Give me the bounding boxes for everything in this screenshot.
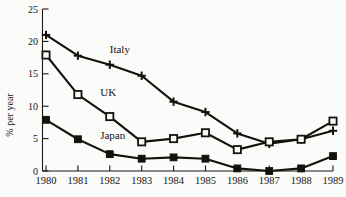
data-point — [43, 116, 50, 123]
data-point — [42, 51, 49, 58]
series-label-italy: Italy — [110, 43, 131, 55]
data-point — [266, 168, 273, 175]
data-point — [202, 129, 209, 136]
x-tick-label-1984: 1984 — [163, 175, 185, 186]
x-tick-label-1987: 1987 — [259, 175, 280, 186]
data-point — [234, 146, 241, 153]
data-series-layer — [42, 31, 337, 175]
x-tick-label-1989: 1989 — [323, 175, 344, 186]
inflation-line-chart: 0 5 10 15 20 25 % per year — [0, 0, 346, 197]
series-line-japan — [46, 120, 333, 171]
data-point — [138, 138, 145, 145]
data-point — [234, 165, 241, 172]
chart-plot-area: 0 5 10 15 20 25 % per year — [0, 0, 346, 197]
data-point — [106, 61, 114, 69]
data-point — [74, 136, 81, 143]
y-tick-label-20: 20 — [28, 36, 38, 47]
data-point — [170, 154, 177, 161]
data-point — [106, 113, 113, 120]
series-line-italy — [46, 35, 333, 144]
y-tick-label-5: 5 — [33, 133, 38, 144]
series-uk — [42, 51, 336, 153]
data-point — [170, 135, 177, 142]
y-axis: 0 5 10 15 20 25 % per year — [4, 4, 49, 177]
x-tick-label-1983: 1983 — [131, 175, 152, 186]
x-tick-label-1986: 1986 — [227, 175, 248, 186]
series-japan — [43, 116, 337, 174]
y-tick-label-10: 10 — [28, 101, 38, 112]
data-point — [266, 138, 273, 145]
y-tick-labels: 0 5 10 15 20 25 — [28, 4, 38, 177]
series-line-uk — [46, 55, 333, 150]
x-tick-label-1985: 1985 — [195, 175, 216, 186]
series-italy — [42, 31, 337, 148]
x-tick-label-1988: 1988 — [291, 175, 312, 186]
data-point — [202, 155, 209, 162]
data-point — [74, 91, 81, 98]
series-annotations: ItalyUKJapan — [100, 43, 130, 141]
data-point — [329, 127, 337, 135]
data-point — [298, 136, 305, 143]
data-point — [329, 118, 336, 125]
data-point — [106, 151, 113, 158]
y-tick-label-15: 15 — [28, 68, 38, 79]
x-tick-labels: 1980 1981 1982 1983 1984 1985 1986 1987 … — [36, 175, 344, 186]
series-label-uk: UK — [100, 86, 116, 98]
x-tick-label-1982: 1982 — [99, 175, 120, 186]
data-point — [138, 155, 145, 162]
data-point — [330, 153, 337, 160]
y-axis-title: % per year — [4, 93, 15, 137]
x-tick-label-1980: 1980 — [36, 175, 57, 186]
y-tick-label-25: 25 — [28, 4, 38, 15]
x-tick-label-1981: 1981 — [67, 175, 88, 186]
series-label-japan: Japan — [100, 129, 126, 141]
data-point — [298, 165, 305, 172]
